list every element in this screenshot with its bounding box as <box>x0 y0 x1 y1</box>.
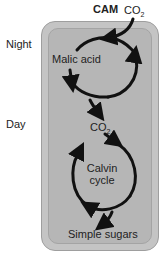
co2-release-arrow <box>90 100 99 114</box>
cycle-arrows <box>0 0 167 258</box>
sugar-output-arrow <box>102 212 112 225</box>
co2-entry-arrow <box>108 19 133 38</box>
